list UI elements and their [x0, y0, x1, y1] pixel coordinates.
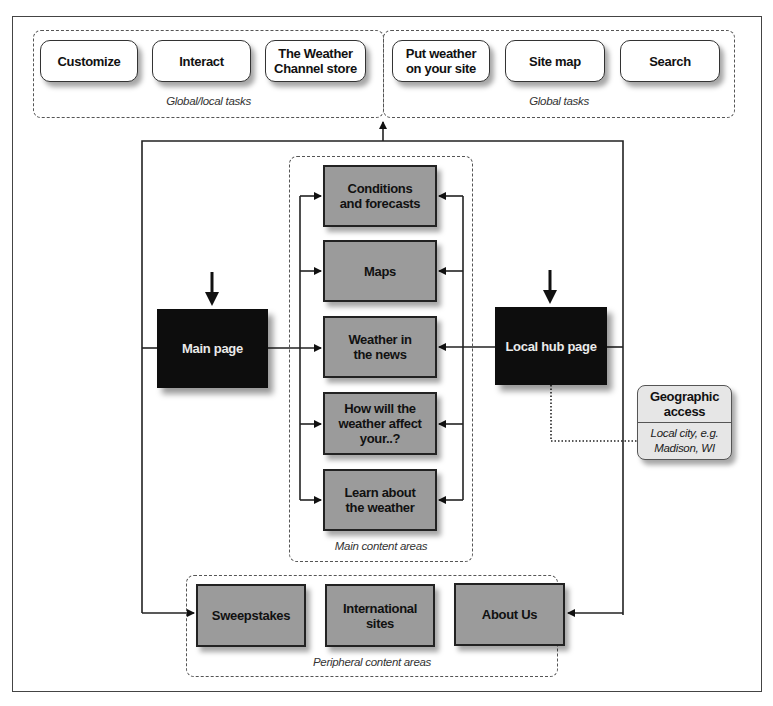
global-local-tasks-caption: Global/local tasks	[33, 95, 384, 107]
conditions-forecasts-label: Conditions and forecasts	[335, 181, 425, 211]
local-hub-page-label: Local hub page	[505, 339, 596, 354]
interact-node[interactable]: Interact	[152, 40, 251, 82]
site-map-label: Site map	[529, 54, 581, 69]
maps-label: Maps	[364, 264, 396, 279]
weather-affect-label: How will the weather affect your..?	[331, 401, 429, 446]
maps-node[interactable]: Maps	[323, 240, 437, 302]
about-us-node[interactable]: About Us	[454, 583, 565, 646]
geographic-access-node[interactable]: Geographic access Local city, e.g. Madis…	[637, 385, 732, 460]
learn-weather-label: Learn about the weather	[339, 485, 421, 515]
learn-weather-node[interactable]: Learn about the weather	[323, 469, 437, 531]
international-sites-node[interactable]: International sites	[325, 584, 435, 647]
weather-channel-store-node[interactable]: The Weather Channel store	[265, 40, 366, 82]
main-content-areas-caption: Main content areas	[289, 540, 473, 552]
local-hub-page-node[interactable]: Local hub page	[495, 307, 607, 385]
geographic-access-title: Geographic access	[638, 386, 731, 423]
about-us-label: About Us	[482, 607, 537, 622]
weather-affect-node[interactable]: How will the weather affect your..?	[323, 392, 437, 455]
customize-node[interactable]: Customize	[40, 40, 138, 82]
sweepstakes-node[interactable]: Sweepstakes	[196, 584, 306, 647]
conditions-forecasts-node[interactable]: Conditions and forecasts	[323, 165, 437, 227]
put-weather-node[interactable]: Put weather on your site	[392, 40, 490, 82]
search-node[interactable]: Search	[620, 40, 720, 82]
main-page-label: Main page	[182, 341, 243, 356]
put-weather-label: Put weather on your site	[399, 46, 483, 76]
peripheral-content-areas-caption: Peripheral content areas	[186, 656, 558, 668]
weather-in-news-label: Weather in the news	[343, 332, 417, 362]
interact-label: Interact	[179, 54, 224, 69]
geographic-access-subtitle: Local city, e.g. Madison, WI	[638, 423, 731, 459]
main-page-node[interactable]: Main page	[157, 309, 268, 388]
customize-label: Customize	[57, 54, 120, 69]
weather-channel-store-label: The Weather Channel store	[272, 46, 359, 76]
site-map-node[interactable]: Site map	[505, 40, 605, 82]
search-label: Search	[649, 54, 691, 69]
international-sites-label: International sites	[337, 601, 423, 631]
sweepstakes-label: Sweepstakes	[212, 608, 290, 623]
weather-in-news-node[interactable]: Weather in the news	[323, 316, 437, 378]
global-tasks-caption: Global tasks	[383, 95, 735, 107]
